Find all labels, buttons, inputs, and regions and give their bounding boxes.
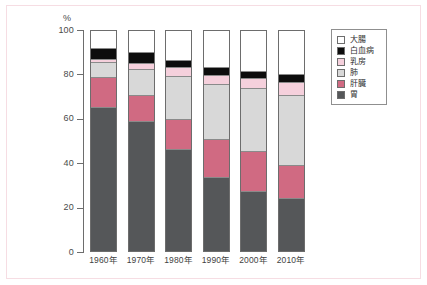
bar-segment-大腸 (204, 31, 229, 68)
bar-segment-肝臓 (241, 152, 266, 192)
bar-2010年[interactable] (278, 30, 305, 252)
y-axis-tick-mark (77, 74, 83, 75)
bar-segment-白血病 (129, 53, 154, 64)
legend-swatch-breast (337, 58, 345, 66)
chart-figure: % 100806040200 1960年1970年1980年1990年2000年… (0, 0, 427, 285)
legend-swatch-colon (337, 36, 345, 44)
y-axis-tick-label: 60 (40, 114, 74, 123)
y-axis-tick-label: 100 (40, 26, 74, 35)
bar-segment-胃 (166, 150, 191, 251)
bar-segment-胃 (241, 192, 266, 251)
legend-item-stomach[interactable]: 胃 (337, 89, 382, 100)
bar-segment-白血病 (279, 75, 304, 83)
bar-1980年[interactable] (165, 30, 192, 252)
bar-segment-肝臓 (91, 78, 116, 108)
bar-1960年[interactable] (90, 30, 117, 252)
bar-segment-乳房 (241, 79, 266, 89)
y-axis-tick-label: 80 (40, 70, 74, 79)
bar-segment-肺 (279, 96, 304, 166)
bar-segment-肺 (204, 85, 229, 140)
legend-label-colon: 大腸 (350, 36, 366, 44)
bar-segment-肺 (129, 70, 154, 96)
plot-area (84, 30, 316, 252)
legend-item-breast[interactable]: 乳房 (337, 56, 382, 67)
bar-2000年[interactable] (240, 30, 267, 252)
y-axis-unit-label: % (63, 14, 71, 23)
bar-segment-胃 (91, 108, 116, 251)
y-axis-tick-mark (77, 208, 83, 209)
y-axis-tick-mark (77, 119, 83, 120)
legend-swatch-leukemia (337, 47, 345, 55)
bar-segment-胃 (204, 178, 229, 251)
y-axis-tick-mark (77, 163, 83, 164)
legend-item-liver[interactable]: 肝臓 (337, 78, 382, 89)
bar-segment-肺 (91, 63, 116, 78)
bar-segment-肺 (241, 89, 266, 152)
bar-segment-白血病 (204, 68, 229, 76)
bar-segment-乳房 (204, 76, 229, 85)
y-axis-tick-label: 20 (40, 203, 74, 212)
y-axis-tick-label: 40 (40, 159, 74, 168)
legend-item-lung[interactable]: 肺 (337, 67, 382, 78)
bar-segment-肝臓 (166, 120, 191, 150)
bar-segment-乳房 (279, 83, 304, 96)
legend-label-leukemia: 白血病 (350, 47, 374, 55)
legend-label-lung: 肺 (350, 69, 358, 77)
bar-segment-大腸 (279, 31, 304, 75)
y-axis-tick-label: 0 (40, 248, 74, 257)
bar-segment-大腸 (129, 31, 154, 53)
bar-segment-乳房 (166, 68, 191, 77)
legend-item-colon[interactable]: 大腸 (337, 34, 382, 45)
legend-item-leukemia[interactable]: 白血病 (337, 45, 382, 56)
legend-swatch-liver (337, 80, 345, 88)
y-axis-tick-mark (77, 252, 83, 253)
legend-label-stomach: 胃 (350, 91, 358, 99)
bar-segment-胃 (129, 122, 154, 251)
y-axis-tick-mark (77, 30, 83, 31)
legend-label-breast: 乳房 (350, 58, 366, 66)
bar-segment-大腸 (166, 31, 191, 61)
bar-segment-肝臓 (279, 166, 304, 199)
bar-segment-肝臓 (204, 140, 229, 179)
legend-swatch-stomach (337, 91, 345, 99)
bar-segment-大腸 (241, 31, 266, 72)
bar-segment-大腸 (91, 31, 116, 49)
bar-segment-白血病 (91, 49, 116, 60)
bar-1990年[interactable] (203, 30, 230, 252)
bar-segment-胃 (279, 199, 304, 251)
chart-legend: 大腸白血病乳房肺肝臓胃 (331, 29, 387, 105)
legend-swatch-lung (337, 69, 345, 77)
bar-segment-白血病 (241, 72, 266, 80)
bar-segment-肝臓 (129, 96, 154, 122)
bar-1970年[interactable] (128, 30, 155, 252)
x-axis-label-2010年: 2010年 (266, 256, 316, 265)
bar-segment-白血病 (166, 61, 191, 69)
bar-segment-肺 (166, 77, 191, 120)
legend-label-liver: 肝臓 (350, 80, 366, 88)
